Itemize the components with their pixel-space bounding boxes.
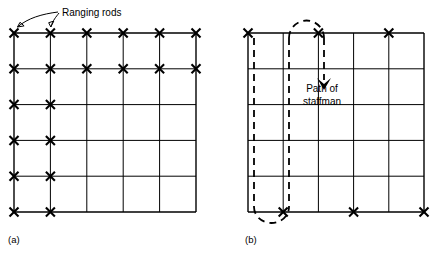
panel-a-label: (a) <box>8 234 20 245</box>
staffman-path-label-line2: staffman <box>303 96 341 107</box>
ranging-rods-label: Ranging rods <box>62 7 121 18</box>
ranging-rods-callout: Ranging rods <box>18 7 122 27</box>
panel-b-grid <box>248 33 424 212</box>
path-turn-arc-bottom <box>254 207 289 223</box>
panel-a: Ranging rods (a) <box>8 7 201 245</box>
panel-b-rod-marks <box>244 29 429 217</box>
survey-grid-figure: Ranging rods (a) <box>0 0 438 258</box>
panel-b: Path of staffman (b) <box>244 21 429 246</box>
arrowhead-right <box>49 21 54 27</box>
panel-a-grid <box>14 33 196 212</box>
panel-a-rod-marks <box>10 29 201 217</box>
staffman-path-label-line1: Path of <box>306 83 338 94</box>
panel-b-label: (b) <box>245 234 257 245</box>
staffman-path: Path of staffman <box>254 21 341 224</box>
figure-container: Ranging rods (a) <box>0 0 438 258</box>
